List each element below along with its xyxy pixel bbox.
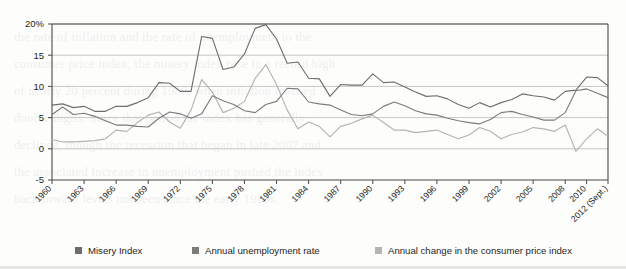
x-axis-tick-label: 1978: [225, 183, 246, 204]
legend-item-label: Misery Index: [88, 245, 142, 256]
x-axis-tick-label: 1981: [257, 183, 278, 204]
legend-item-label: Annual unemployment rate: [205, 245, 320, 256]
x-axis-tick-label: 1966: [97, 183, 118, 204]
x-axis-tick-label: 1984: [289, 183, 310, 204]
legend-swatch-cpi-icon: [375, 247, 382, 254]
x-axis-tick-label: 1999: [450, 183, 471, 204]
chart-legend: Misery IndexAnnual unemployment rateAnnu…: [0, 241, 626, 259]
y-axis-tick-label: 0: [39, 143, 44, 154]
x-axis-tick-label: 2005: [514, 183, 535, 204]
chart-series-lines: [52, 25, 608, 152]
legend-swatch-unemployment-icon: [192, 247, 199, 254]
legend-item-annual-unemployment-rate[interactable]: Annual unemployment rate: [192, 245, 320, 256]
y-axis-tick-label: 20%: [25, 18, 45, 29]
legend-item-misery-index[interactable]: Misery Index: [75, 245, 142, 256]
series-line-annual-change-in-the-consumer-price-index: [52, 65, 608, 152]
x-axis-tick-label: 1996: [418, 183, 439, 204]
chart-gridlines: [52, 24, 608, 149]
legend-swatch-misery-icon: [75, 247, 82, 254]
y-axis-tick-label: -5: [36, 174, 44, 185]
y-axis-tick-labels: -505101520%: [25, 18, 45, 185]
y-axis-tick-label: 10: [33, 81, 44, 92]
x-axis-tick-label: 1987: [322, 183, 343, 204]
x-axis-tick-label: 2008: [546, 183, 567, 204]
chart-frame: [52, 24, 608, 180]
x-axis-tick-label: 1975: [193, 183, 214, 204]
legend-item-label: Annual change in the consumer price inde…: [388, 245, 572, 256]
misery-index-chart: -505101520% 1960196319661969197219751978…: [0, 0, 626, 269]
series-line-misery-index: [52, 25, 608, 112]
x-axis-tick-label: 1990: [354, 183, 375, 204]
x-axis-tick-label: 1993: [386, 183, 407, 204]
y-axis-tick-label: 5: [39, 112, 44, 123]
y-axis-tick-label: 15: [33, 50, 44, 61]
x-axis-tick-label: 1969: [129, 183, 150, 204]
x-axis-tick-label: 1960: [33, 183, 54, 204]
legend-item-annual-change-in-the-consumer-price-index[interactable]: Annual change in the consumer price inde…: [375, 245, 572, 256]
x-axis-tick-label: 1972: [161, 183, 182, 204]
chart-plot-area: -505101520% 1960196319661969197219751978…: [0, 0, 626, 230]
x-axis-tick-label: 2002: [482, 183, 503, 204]
x-axis-tick-label: 1963: [65, 183, 86, 204]
x-axis-tick-labels: 1960196319661969197219751978198119841987…: [33, 183, 610, 224]
